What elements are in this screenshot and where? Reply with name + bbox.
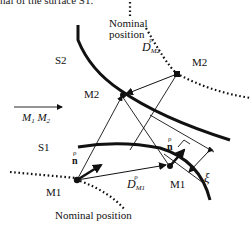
vector-d-m2 [126, 74, 177, 94]
point-m2-nominal [174, 71, 180, 77]
label-m1-nominal: M1 [46, 187, 61, 198]
n-right-main: n [167, 142, 173, 151]
label-d-m1: ρ DM1 [127, 175, 145, 193]
d-m2-sub: M2 [151, 47, 160, 55]
label-d-m2: ρ DM2 [142, 38, 160, 56]
n-left-main: n [72, 156, 78, 165]
label-m2-nominal: M2 [192, 57, 207, 68]
point-m2-actual [120, 92, 126, 98]
label-nominal-position-bottom: Nominal position [55, 210, 132, 221]
label-xi: ξ [204, 172, 210, 183]
label-s1: S1 [38, 142, 50, 153]
d-m2-main: D [142, 40, 151, 54]
point-m1-nominal [74, 177, 80, 183]
label-m1m2-vector: M1 M2 [22, 112, 50, 127]
label-m1-actual: M1 [170, 179, 185, 190]
label-s2: S2 [55, 55, 67, 66]
d-m1-main: D [127, 177, 136, 191]
label-normal-right: ρ n [167, 137, 173, 151]
d-m1-sub: M1 [136, 184, 145, 192]
label-normal-left: ρ n [72, 151, 78, 165]
m1m2-sub2: 2 [47, 117, 51, 125]
m1m2-m2: M [35, 111, 47, 123]
xi-dimension-arrow [189, 152, 208, 172]
label-nominal-position-top: Nominal position [109, 18, 148, 40]
nominal-top-line2: position [109, 28, 144, 40]
point-m1-actual [167, 163, 173, 169]
label-m2-actual: M2 [84, 89, 99, 100]
right-angle-mark [178, 140, 190, 147]
nominal-curve-s1 [10, 172, 125, 210]
m1m2-m: M [22, 111, 31, 123]
